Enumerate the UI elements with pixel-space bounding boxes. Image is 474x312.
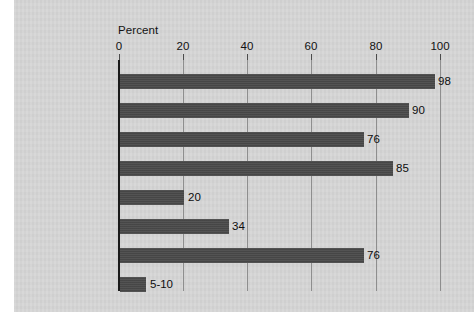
- bar-china-taiwan: [120, 161, 393, 176]
- x-tick-label-80: 80: [370, 40, 383, 52]
- value-label-mexico: 76: [367, 133, 380, 145]
- bar-chad: [120, 277, 146, 292]
- screenshot-root: Percent 0 20 40 60 80 100 United States …: [0, 0, 474, 312]
- x-axis-title: Percent: [118, 24, 158, 36]
- value-label-india: 34: [232, 220, 245, 232]
- x-tick-label-60: 60: [305, 40, 318, 52]
- x-tick-label-100: 100: [430, 40, 449, 52]
- value-label-chad: 5-10: [150, 278, 173, 290]
- bar-india: [120, 219, 229, 234]
- bar-algeria: [120, 190, 184, 205]
- x-tick-label-20: 20: [177, 40, 190, 52]
- x-tick-label-0: 0: [116, 40, 122, 52]
- value-label-china-taiwan: 85: [396, 162, 409, 174]
- value-label-united-states: 98: [438, 75, 451, 87]
- value-label-sri-lanka: 76: [367, 249, 380, 261]
- x-tick-label-40: 40: [241, 40, 254, 52]
- value-label-algeria: 20: [188, 191, 201, 203]
- horizontal-bar-chart: Percent 0 20 40 60 80 100 United States …: [0, 0, 474, 312]
- value-label-uruguay: 90: [412, 104, 425, 116]
- bar-united-states: [120, 74, 435, 89]
- bar-sri-lanka: [120, 248, 364, 263]
- bar-mexico: [120, 132, 364, 147]
- bar-uruguay: [120, 103, 409, 118]
- gridline-100: [440, 60, 441, 291]
